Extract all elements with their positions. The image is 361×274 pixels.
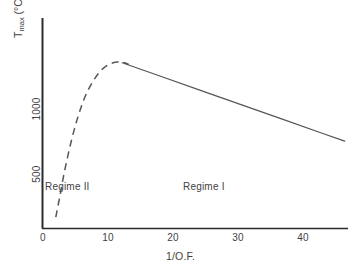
annotation-regime-one: Regime I — [183, 181, 225, 192]
series-regime-two-curve — [56, 62, 129, 217]
x-tick-label-40: 40 — [288, 232, 318, 243]
y-tick-label-500: 500 — [31, 166, 42, 190]
x-tick-label-10: 10 — [93, 232, 123, 243]
y-axis-title-base: T — [12, 32, 24, 38]
x-tick-label-0: 0 — [28, 232, 58, 243]
y-axis-title-unit: (°C) — [12, 0, 24, 17]
x-tick-label-20: 20 — [158, 232, 188, 243]
y-axis-title-subscript: max — [17, 17, 26, 31]
x-tick-label-30: 30 — [223, 232, 253, 243]
y-tick-label-1000: 1000 — [31, 98, 42, 122]
series-regime-one-line — [122, 63, 345, 141]
x-axis-title: 1/O.F. — [0, 250, 361, 262]
y-axis-title: Tmax (°C) — [12, 20, 26, 38]
annotation-regime-two: Regime II — [45, 181, 90, 192]
chart-figure: Tmax (°C) 1000 500 0 10 20 30 40 1/O.F. … — [0, 0, 361, 274]
